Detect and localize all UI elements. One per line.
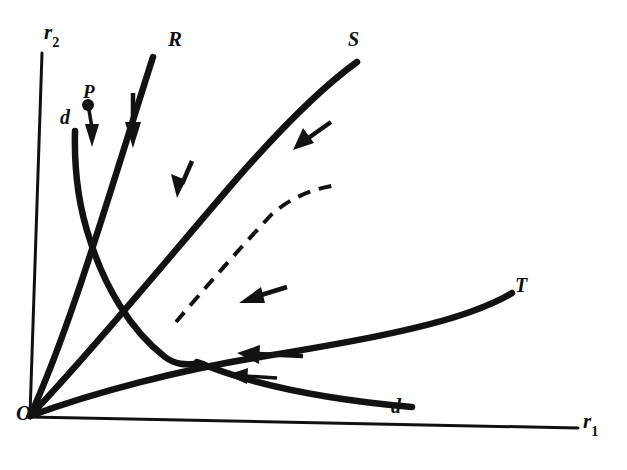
phase-diagram-figure: r2 r1 O R S T P d d [0, 0, 627, 470]
curve-S-label: S [348, 29, 359, 49]
point-P-label: P [83, 82, 95, 101]
isocline-upper-d-label: d [60, 107, 70, 127]
y-axis-label: r2 [44, 22, 59, 46]
x-axis [30, 417, 578, 428]
x-axis-label: r1 [583, 411, 598, 435]
flow-arrow-from-P [85, 110, 99, 147]
curve-T-label: T [515, 275, 527, 295]
curve-d-upper [75, 131, 203, 364]
flow-arrow-mid-upper [171, 161, 192, 198]
origin-label: O [16, 403, 31, 424]
flow-arrow-mid-right [239, 287, 287, 303]
curve-d-lower [197, 362, 412, 407]
curve-R-label: R [168, 29, 182, 50]
flow-arrow-on-S-upper [293, 122, 331, 150]
isocline-lower-d-label: d [391, 396, 401, 416]
diagram-canvas [0, 0, 627, 470]
y-axis [30, 53, 42, 415]
